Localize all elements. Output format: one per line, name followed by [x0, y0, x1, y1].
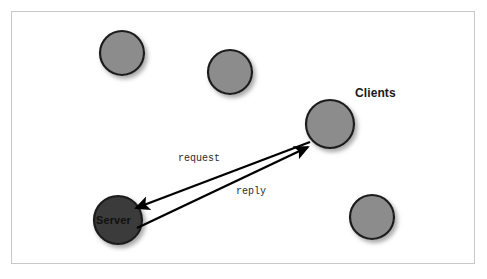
- clients-group-label: Clients: [355, 87, 396, 99]
- request-arrow: [136, 142, 310, 208]
- diagram-canvas: [0, 0, 487, 279]
- client-node-2[interactable]: [208, 50, 252, 94]
- reply-arrow: [137, 147, 308, 228]
- edges: [136, 142, 310, 228]
- figure-root: Clients Server request reply: [0, 0, 487, 279]
- reply-edge-label: reply: [236, 187, 266, 197]
- client-node-3-labeled[interactable]: [306, 100, 354, 148]
- server-node-label: Server: [96, 215, 131, 226]
- client-node-4[interactable]: [350, 195, 394, 239]
- client-node-1[interactable]: [100, 31, 144, 75]
- client-nodes: [100, 31, 394, 239]
- request-edge-label: request: [178, 154, 220, 164]
